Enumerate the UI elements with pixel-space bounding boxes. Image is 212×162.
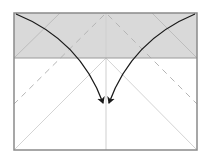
fold-diagram-svg: [0, 0, 212, 162]
origami-diagram: [0, 0, 212, 162]
